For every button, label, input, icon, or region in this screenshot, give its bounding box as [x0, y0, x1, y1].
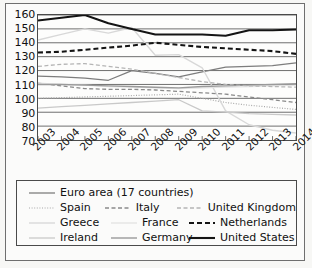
- legend-item-ireland[interactable]: Ireland: [17, 232, 111, 243]
- legend-swatch-icon: [111, 218, 137, 228]
- legend-label: Euro area (17 countries): [60, 187, 194, 198]
- y-axis-tick-label: 160: [15, 9, 35, 20]
- chart-legend: Euro area (17 countries)SpainItalyUnited…: [16, 180, 297, 246]
- y-axis-tick-label: 140: [15, 37, 35, 48]
- legend-swatch-icon: [29, 233, 55, 243]
- plot-area: [37, 14, 297, 141]
- y-axis-tick-label: 100: [15, 93, 35, 104]
- legend-label: United Kingdom: [208, 202, 296, 213]
- legend-item-france[interactable]: France: [111, 217, 189, 228]
- legend-row: Euro area (17 countries): [17, 185, 296, 200]
- legend-item-greece[interactable]: Greece: [17, 217, 111, 228]
- series-line-spain: [38, 94, 296, 109]
- y-axis-tick-label: 90: [21, 107, 35, 118]
- y-axis-tick-label: 110: [15, 79, 35, 90]
- y-axis-tick-label: 80: [21, 121, 35, 132]
- series-line-ireland: [38, 100, 296, 115]
- legend-label: Netherlands: [220, 217, 287, 228]
- legend-item-united-kingdom[interactable]: United Kingdom: [177, 202, 296, 213]
- x-axis-tick-labels: 2003200420052006200720082009201020112012…: [37, 143, 297, 177]
- legend-row: GreeceFranceNetherlands: [17, 215, 296, 230]
- y-axis-tick-labels: 708090100110120130140150160: [9, 14, 35, 141]
- legend-label: Greece: [60, 217, 99, 228]
- legend-item-italy[interactable]: Italy: [105, 202, 177, 213]
- series-line-netherlands: [38, 43, 296, 54]
- legend-swatch-icon: [105, 203, 131, 213]
- legend-label: Spain: [60, 202, 91, 213]
- screenshot-root: 708090100110120130140150160 200320042005…: [0, 0, 312, 268]
- legend-swatch-icon: [29, 218, 55, 228]
- legend-row: SpainItalyUnited Kingdom: [17, 200, 296, 215]
- series-line-euro-area-17-countries: [38, 63, 296, 80]
- legend-swatch-icon: [111, 233, 137, 243]
- line-chart: 708090100110120130140150160 200320042005…: [9, 7, 302, 175]
- series-line-united-states: [38, 15, 296, 36]
- legend-label: Ireland: [60, 232, 98, 243]
- legend-item-spain[interactable]: Spain: [17, 202, 105, 213]
- legend-item-germany[interactable]: Germany: [111, 232, 189, 243]
- legend-item-united-states[interactable]: United States: [189, 232, 295, 243]
- legend-item-euro-area-17-countries[interactable]: Euro area (17 countries): [17, 187, 111, 198]
- legend-label: Germany: [142, 232, 193, 243]
- legend-label: Italy: [136, 202, 160, 213]
- legend-swatch-icon: [189, 218, 215, 228]
- y-axis-tick-label: 120: [15, 65, 35, 76]
- legend-swatch-icon: [177, 203, 203, 213]
- series-line-united-kingdom: [38, 64, 296, 88]
- legend-label: France: [142, 217, 179, 228]
- legend-label: United States: [220, 232, 295, 243]
- plot-svg: [38, 15, 296, 140]
- legend-item-netherlands[interactable]: Netherlands: [189, 217, 287, 228]
- y-axis-tick-label: 130: [15, 51, 35, 62]
- legend-swatch-icon: [29, 188, 55, 198]
- y-axis-tick-label: 150: [15, 23, 35, 34]
- legend-row: IrelandGermanyUnited States: [17, 230, 296, 245]
- legend-swatch-icon: [189, 233, 215, 243]
- legend-swatch-icon: [29, 203, 55, 213]
